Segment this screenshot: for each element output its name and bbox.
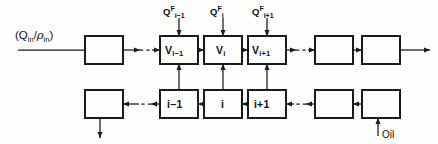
- oil-inlet-label: Oil: [382, 130, 394, 140]
- top-box-label-v-i: Vi: [216, 45, 226, 58]
- bottom-box-right-a: [315, 90, 353, 118]
- bottom-box-label-i-minus-1: i−1: [167, 99, 183, 110]
- bottom-box-outlet: [85, 90, 123, 118]
- top-box-right-b: [362, 36, 400, 64]
- top-box-right-a: [315, 36, 353, 64]
- top-box-inlet: [85, 36, 123, 64]
- feed-label-i: QFi: [210, 5, 224, 19]
- feed-label-i-plus-1: QFi+1: [252, 5, 274, 19]
- top-box-label-v-i-plus-1: Vi+1: [252, 45, 270, 58]
- inlet-stream-label: (Qin/ρin): [15, 30, 53, 43]
- bottom-box-label-i-plus-1: i+1: [254, 99, 270, 110]
- bottom-box-label-i: i: [221, 99, 224, 110]
- process-flow-diagram: (Qin/ρin) QFi−1 QFi QFi+1 Vi−1 Vi Vi+1 i…: [0, 0, 438, 144]
- diagram-canvas: [0, 0, 438, 144]
- top-box-label-v-i-minus-1: Vi−1: [165, 45, 183, 58]
- bottom-box-right-b: [362, 90, 400, 118]
- feed-label-i-minus-1: QFi−1: [163, 5, 185, 19]
